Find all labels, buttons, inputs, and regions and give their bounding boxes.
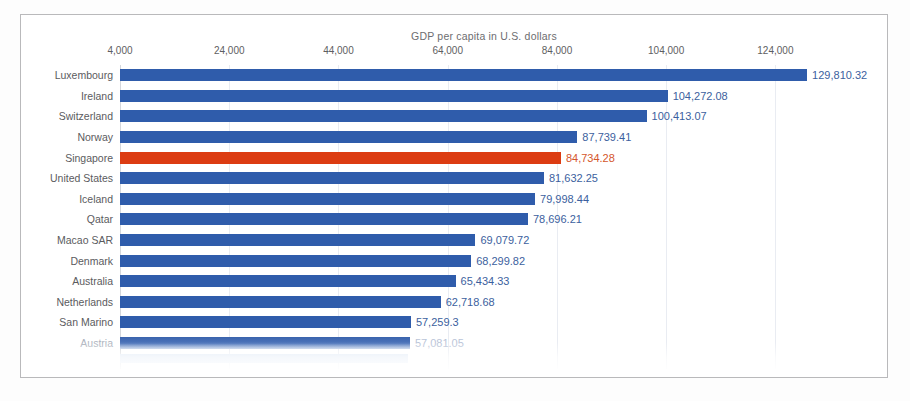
chart-title: GDP per capita in U.S. dollars: [21, 30, 887, 42]
bar-value-label: 104,272.08: [673, 90, 728, 102]
category-label: Netherlands: [21, 296, 113, 308]
clipped-next-bar: [120, 354, 408, 363]
bar-value-label: 62,718.68: [446, 296, 495, 308]
bar[interactable]: [120, 193, 535, 205]
bar-value-label: 100,413.07: [652, 110, 707, 122]
bar[interactable]: [120, 275, 456, 287]
bar[interactable]: [120, 131, 577, 143]
bar[interactable]: [120, 172, 544, 184]
bar-row: Luxembourg129,810.32: [21, 65, 887, 86]
bar-row: Netherlands62,718.68: [21, 292, 887, 313]
bar[interactable]: [120, 337, 410, 349]
category-label: Denmark: [21, 255, 113, 267]
bar-row: Macao SAR69,079.72: [21, 230, 887, 251]
category-label: Ireland: [21, 90, 113, 102]
bar[interactable]: [120, 90, 668, 102]
category-label: United States: [21, 172, 113, 184]
bar-rows: Luxembourg129,810.32Ireland104,272.08Swi…: [21, 65, 887, 377]
bar-value-label: 78,696.21: [533, 213, 582, 225]
bar-value-label: 65,434.33: [461, 275, 510, 287]
bar-row: Denmark68,299.82: [21, 250, 887, 271]
bar[interactable]: [120, 316, 411, 328]
x-axis-tick-label: 124,000: [757, 45, 793, 56]
bar-value-label: 68,299.82: [476, 255, 525, 267]
bar-value-label: 79,998.44: [540, 193, 589, 205]
x-axis-tick-labels: 4,00024,00044,00064,00084,000104,000124,…: [21, 45, 887, 61]
category-label: Macao SAR: [21, 234, 113, 246]
category-label: Luxembourg: [21, 69, 113, 81]
bar-highlighted[interactable]: [120, 152, 561, 164]
category-label: Singapore: [21, 152, 113, 164]
bar[interactable]: [120, 213, 528, 225]
bar-row: San Marino57,259.3: [21, 312, 887, 333]
chart-card: GDP per capita in U.S. dollars 4,00024,0…: [20, 14, 888, 378]
bar-row: Austria57,081.05: [21, 333, 887, 354]
x-axis-tick-label: 4,000: [107, 45, 132, 56]
bar-row: Iceland79,998.44: [21, 189, 887, 210]
category-label: Switzerland: [21, 110, 113, 122]
bar-value-label: 81,632.25: [549, 172, 598, 184]
category-label: Iceland: [21, 193, 113, 205]
category-label: Australia: [21, 275, 113, 287]
x-axis-tick-label: 44,000: [323, 45, 354, 56]
bar-row: Ireland104,272.08: [21, 86, 887, 107]
bar-row: Singapore84,734.28: [21, 147, 887, 168]
bar-row: Qatar78,696.21: [21, 209, 887, 230]
bar-value-label: 57,259.3: [416, 316, 459, 328]
bar-row: Switzerland100,413.07: [21, 106, 887, 127]
category-label: San Marino: [21, 316, 113, 328]
bar[interactable]: [120, 234, 475, 246]
x-axis-tick-label: 84,000: [542, 45, 573, 56]
category-label: Austria: [21, 337, 113, 349]
page-background: GDP per capita in U.S. dollars 4,00024,0…: [0, 0, 910, 401]
category-label: Norway: [21, 131, 113, 143]
bar[interactable]: [120, 255, 471, 267]
bar[interactable]: [120, 296, 441, 308]
x-axis-tick-label: 64,000: [432, 45, 463, 56]
bar-row: United States81,632.25: [21, 168, 887, 189]
bar-row: Australia65,434.33: [21, 271, 887, 292]
x-axis-tick-label: 24,000: [214, 45, 245, 56]
bar[interactable]: [120, 110, 647, 122]
category-label: Qatar: [21, 213, 113, 225]
bar-row: Norway87,739.41: [21, 127, 887, 148]
x-axis-tick-label: 104,000: [648, 45, 684, 56]
bar-value-label: 87,739.41: [582, 131, 631, 143]
bar-value-label: 69,079.72: [480, 234, 529, 246]
bar-value-label: 84,734.28: [566, 152, 615, 164]
bar-value-label: 57,081.05: [415, 337, 464, 349]
plot-area: Luxembourg129,810.32Ireland104,272.08Swi…: [120, 65, 887, 377]
bar[interactable]: [120, 69, 807, 81]
bar-value-label: 129,810.32: [812, 69, 867, 81]
